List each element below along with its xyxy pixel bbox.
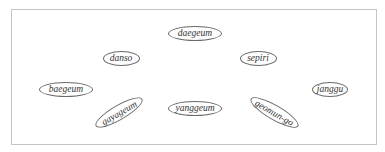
node-yanggeum: yanggeum — [168, 101, 222, 116]
node-label: daegeum — [178, 28, 212, 38]
node-janggu: janggu — [312, 82, 348, 97]
node-label: danso — [110, 53, 133, 63]
node-label: baegeum — [49, 84, 83, 94]
node-baegeum: baegeum — [39, 82, 93, 97]
node-label: yanggeum — [175, 103, 214, 113]
node-label: sepiri — [247, 53, 269, 63]
node-label: janggu — [317, 84, 343, 94]
node-daegeum: daegeum — [168, 26, 222, 41]
node-sepiri: sepiri — [240, 51, 277, 66]
node-danso: danso — [103, 51, 140, 66]
